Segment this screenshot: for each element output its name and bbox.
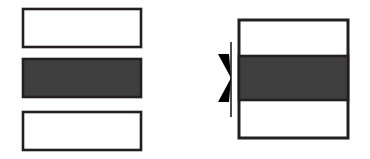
bottom-layer-rect: [23, 112, 141, 150]
exploded-stack-group: [23, 9, 141, 150]
top-layer-rect: [23, 9, 141, 47]
middle-layer-rect: [23, 59, 141, 97]
highlighted-band-rect: [239, 56, 348, 100]
technical-drawing: [0, 0, 370, 159]
assembled-stack-group: [239, 20, 348, 138]
figure-canvas: [0, 0, 370, 159]
